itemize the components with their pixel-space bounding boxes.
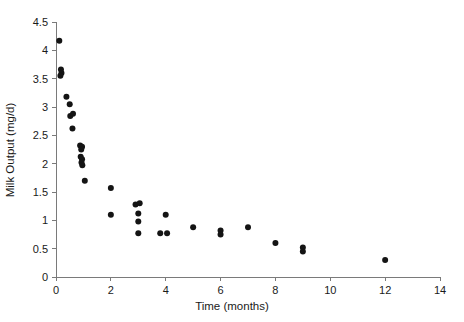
data-point <box>135 230 141 236</box>
y-tick-label: 1 <box>42 214 48 226</box>
data-point <box>135 218 141 224</box>
y-axis-title: Milk Output (mg/d) <box>4 103 16 198</box>
data-point <box>245 224 251 230</box>
data-point <box>157 230 163 236</box>
plot-background <box>0 0 464 322</box>
y-tick-label: 0.5 <box>33 243 48 255</box>
y-tick-label: 4 <box>42 44 48 56</box>
data-point <box>300 249 306 255</box>
x-tick-label: 8 <box>272 284 278 296</box>
y-tick-label: 1.5 <box>33 186 48 198</box>
data-point <box>78 147 84 153</box>
y-tick-label: 2.5 <box>33 129 48 141</box>
data-point <box>218 232 224 238</box>
x-tick-label: 6 <box>218 284 224 296</box>
data-point <box>56 38 62 44</box>
data-point <box>108 185 114 191</box>
data-point <box>135 211 141 217</box>
data-point <box>79 162 85 168</box>
x-tick-label: 10 <box>324 284 336 296</box>
x-tick-label: 0 <box>53 284 59 296</box>
data-point <box>67 101 73 107</box>
x-axis-title: Time (months) <box>195 300 269 312</box>
y-tick-label: 0 <box>42 271 48 283</box>
data-point <box>382 257 388 263</box>
y-tick-label: 3 <box>42 101 48 113</box>
data-point <box>57 73 63 79</box>
x-tick-label: 4 <box>163 284 169 296</box>
y-tick-label: 2 <box>42 158 48 170</box>
data-point <box>69 126 75 132</box>
data-point <box>164 230 170 236</box>
data-point <box>137 200 143 206</box>
data-point <box>190 224 196 230</box>
data-point <box>108 212 114 218</box>
plot-canvas: 00.511.522.533.544.5 02468101214 Time (m… <box>0 0 464 322</box>
x-tick-label: 14 <box>434 284 446 296</box>
y-tick-label: 3.5 <box>33 73 48 85</box>
data-point <box>63 94 69 100</box>
x-tick-label: 12 <box>379 284 391 296</box>
scatter-chart-figure: 00.511.522.533.544.5 02468101214 Time (m… <box>0 0 464 322</box>
x-tick-label: 2 <box>108 284 114 296</box>
data-point <box>163 212 169 218</box>
data-point <box>82 178 88 184</box>
data-point <box>272 240 278 246</box>
data-point <box>70 111 76 117</box>
y-tick-label: 4.5 <box>33 16 48 28</box>
